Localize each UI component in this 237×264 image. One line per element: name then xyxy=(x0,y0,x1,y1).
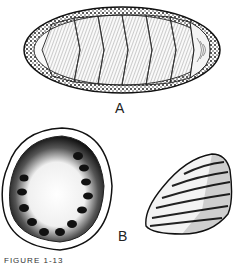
label-b: B xyxy=(118,228,127,244)
limpet-exterior-illustration xyxy=(142,150,234,236)
label-a: A xyxy=(115,100,124,116)
chiton-illustration xyxy=(22,4,222,96)
limpet-interior-illustration xyxy=(0,126,115,252)
figure-caption: FIGURE 1-13 xyxy=(4,256,63,264)
